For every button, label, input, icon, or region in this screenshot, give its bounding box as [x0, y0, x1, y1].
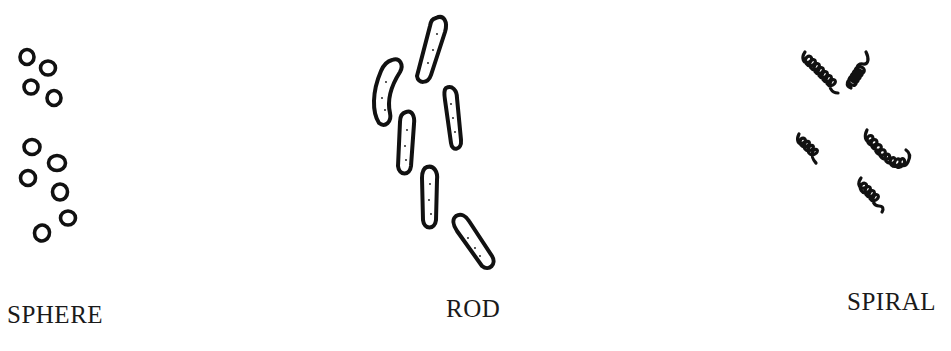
rod-cell	[398, 112, 414, 174]
sphere-cell	[24, 140, 40, 155]
sphere-cell	[47, 91, 61, 106]
rod-label: ROD	[446, 296, 500, 321]
rod-cell	[374, 59, 402, 124]
spiral-cell	[847, 52, 868, 88]
spiral-cells	[798, 52, 910, 212]
sphere-label: SPHERE	[7, 302, 103, 327]
rod-cell	[417, 17, 446, 82]
spiral-cell	[798, 134, 818, 163]
rod-cell	[453, 215, 493, 268]
spiral-cell	[859, 178, 883, 212]
sphere-cell	[49, 156, 66, 171]
sphere-cells	[20, 50, 76, 244]
sphere-cell	[53, 184, 68, 200]
spiral-cell	[803, 52, 838, 93]
sphere-cell	[41, 61, 56, 75]
sphere-cell	[32, 223, 52, 243]
sphere-cell	[21, 171, 36, 186]
spiral-label: SPIRAL	[847, 289, 936, 314]
spiral-cell	[865, 130, 909, 167]
sphere-cell	[61, 211, 76, 225]
sphere-cell	[24, 80, 38, 94]
rod-cells	[374, 17, 494, 268]
rod-cell	[422, 167, 437, 228]
sphere-cell	[20, 50, 34, 65]
